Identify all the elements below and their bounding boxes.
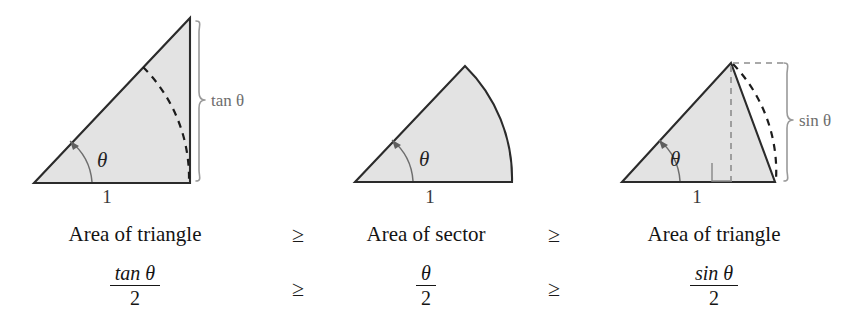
formula-sine-denominator: 2 [690, 286, 738, 309]
relation-geq-4: ≥ [526, 262, 582, 302]
caption-formula-row: tan θ 2 ≥ θ 2 ≥ sin θ 2 [0, 262, 846, 311]
brace-sine [784, 63, 793, 181]
panel-sine-triangle: θ 1 sin θ [622, 63, 831, 207]
sine-triangle-shape [622, 63, 775, 182]
theta-label-sine: θ [670, 147, 680, 171]
formula-sine-numerator: sin θ [690, 262, 738, 286]
formula-tangent: tan θ 2 [0, 262, 270, 311]
caption-area-of-triangle-left: Area of triangle [0, 222, 270, 247]
formula-sector-numerator: θ [416, 262, 436, 286]
theta-label-tangent: θ [97, 148, 107, 172]
sin-theta-label: sin θ [799, 111, 831, 130]
relation-geq-3: ≥ [270, 262, 326, 302]
formula-sector: θ 2 [326, 262, 526, 311]
relation-geq-1: ≥ [270, 222, 326, 248]
formula-tangent-numerator: tan θ [110, 262, 160, 286]
relation-geq-2: ≥ [526, 222, 582, 248]
trig-inequality-figure: θ 1 tan θ θ 1 [0, 0, 846, 328]
caption-area-of-triangle-right: Area of triangle [582, 222, 846, 247]
formula-sector-denominator: 2 [416, 286, 436, 309]
brace-tangent [196, 21, 205, 181]
formula-sine: sin θ 2 [582, 262, 846, 311]
caption-area-of-sector: Area of sector [326, 222, 526, 247]
theta-label-sector: θ [419, 147, 429, 171]
formula-tangent-denominator: 2 [110, 286, 160, 309]
tangent-triangle-shape [34, 18, 190, 183]
panel-circular-sector: θ 1 [355, 66, 512, 207]
tan-theta-label: tan θ [211, 91, 244, 110]
base-label-sector: 1 [425, 186, 435, 207]
sector-shape [355, 66, 512, 182]
caption-names-row: Area of triangle ≥ Area of sector ≥ Area… [0, 222, 846, 248]
panel-tangent-triangle: θ 1 tan θ [34, 18, 244, 207]
base-label-sine: 1 [692, 186, 702, 207]
base-label-tangent: 1 [102, 186, 112, 207]
